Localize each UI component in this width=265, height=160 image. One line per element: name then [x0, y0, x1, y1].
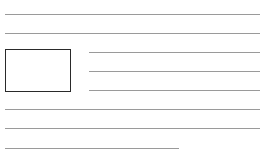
image-placeholder	[5, 49, 71, 92]
text-line-full-4	[5, 128, 260, 129]
text-line-wrap-3	[89, 90, 260, 91]
text-line-short-last	[5, 148, 179, 149]
text-line-full-1	[5, 14, 260, 15]
text-line-wrap-2	[89, 71, 260, 72]
text-line-full-2	[5, 33, 260, 34]
text-line-full-3	[5, 109, 260, 110]
text-line-wrap-1	[89, 52, 260, 53]
